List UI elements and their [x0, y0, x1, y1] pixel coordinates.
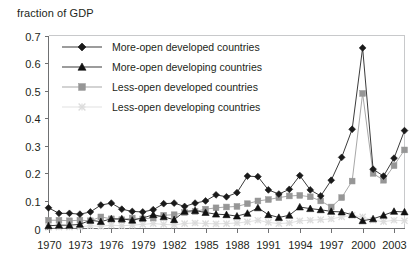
data-point-cross: [391, 217, 397, 223]
data-point-cross: [234, 220, 240, 226]
data-point-diamond: [192, 200, 199, 207]
data-point-diamond: [338, 154, 345, 161]
data-point-cross: [161, 221, 167, 227]
data-point-cross: [108, 222, 114, 228]
x-tick-label: 2000: [351, 239, 375, 251]
data-point-cross: [265, 219, 271, 225]
data-point-cross: [223, 220, 229, 226]
data-point-cross: [318, 217, 324, 223]
x-tick-label: 1997: [319, 239, 343, 251]
data-point-square: [339, 195, 345, 201]
data-point-diamond: [181, 203, 188, 210]
data-point-square: [234, 204, 240, 210]
y-tick-label: 0.6: [25, 58, 40, 70]
data-point-cross: [401, 218, 407, 224]
data-point-square: [79, 84, 86, 91]
y-tick-label: 0.7: [25, 31, 40, 43]
data-point-square: [402, 147, 408, 153]
legend-label: Less-open developed countries: [112, 81, 258, 93]
data-point-triangle: [244, 210, 251, 217]
data-point-cross: [79, 104, 86, 111]
data-point-diamond: [307, 187, 314, 194]
x-tick-label: 1970: [37, 239, 61, 251]
data-point-cross: [276, 220, 282, 226]
data-point-cross: [380, 219, 386, 225]
x-tick-label: 1988: [225, 239, 249, 251]
data-point-diamond: [171, 200, 178, 207]
x-tick-label: 1985: [194, 239, 218, 251]
data-point-square: [349, 178, 355, 184]
data-point-diamond: [150, 206, 157, 213]
data-point-square: [286, 193, 292, 199]
data-point-cross: [286, 220, 292, 226]
data-point-diamond: [97, 202, 104, 209]
data-point-square: [224, 204, 230, 210]
data-point-square: [255, 198, 261, 204]
data-point-diamond: [234, 189, 241, 196]
data-point-diamond: [349, 126, 356, 133]
data-point-cross: [244, 219, 250, 225]
data-point-diamond: [108, 200, 115, 207]
data-point-diamond: [401, 127, 408, 134]
legend-label: More-open developing countries: [112, 61, 262, 73]
data-point-triangle: [380, 212, 387, 219]
data-point-square: [265, 197, 271, 203]
data-point-diamond: [45, 204, 52, 211]
data-point-cross: [213, 221, 219, 227]
data-point-diamond: [129, 208, 136, 215]
data-point-diamond: [87, 209, 94, 216]
x-tick-label: 1991: [256, 239, 280, 251]
data-point-square: [307, 194, 313, 200]
x-tick-label: 1994: [288, 239, 312, 251]
x-tick-label: 2003: [382, 239, 406, 251]
data-point-triangle: [254, 204, 261, 211]
data-point-diamond: [118, 206, 125, 213]
legend-entry-4[interactable]: Less-open developing countries: [62, 101, 260, 113]
data-point-cross: [328, 216, 334, 222]
y-tick-label: 0.4: [25, 113, 40, 125]
data-point-square: [213, 205, 219, 211]
data-point-cross: [150, 220, 156, 226]
legend-entry-2[interactable]: More-open developing countries: [62, 61, 262, 73]
data-point-cross: [119, 223, 125, 229]
data-point-cross: [192, 220, 198, 226]
data-point-square: [360, 91, 366, 97]
data-point-diamond: [139, 209, 146, 216]
line-chart-plot: 00.10.20.30.40.50.60.7197019731976197919…: [0, 0, 418, 276]
legend-label: Less-open developing countries: [112, 101, 260, 113]
data-point-diamond: [244, 173, 251, 180]
y-tick-label: 0.5: [25, 86, 40, 98]
y-tick-label: 0.2: [25, 168, 40, 180]
data-point-diamond: [78, 43, 86, 51]
data-point-diamond: [160, 200, 167, 207]
data-point-diamond: [77, 211, 84, 218]
data-point-diamond: [202, 198, 209, 205]
data-point-cross: [307, 217, 313, 223]
data-point-square: [391, 163, 397, 169]
data-point-diamond: [328, 177, 335, 184]
data-point-diamond: [66, 210, 73, 217]
x-tick-label: 1973: [68, 239, 92, 251]
data-point-cross: [255, 217, 261, 223]
data-point-cross: [297, 218, 303, 224]
data-point-diamond: [359, 45, 366, 52]
y-tick-label: 0.1: [25, 196, 40, 208]
legend-entry-3[interactable]: Less-open developed countries: [62, 81, 258, 93]
x-tick-label: 1976: [99, 239, 123, 251]
data-point-triangle: [265, 211, 272, 218]
data-point-diamond: [213, 191, 220, 198]
data-point-triangle: [296, 203, 303, 210]
data-point-cross: [182, 220, 188, 226]
data-point-square: [297, 193, 303, 199]
legend-entry-1[interactable]: More-open developed countries: [62, 41, 260, 53]
legend-label: More-open developed countries: [112, 41, 260, 53]
data-point-cross: [140, 221, 146, 227]
data-point-cross: [202, 220, 208, 226]
data-point-diamond: [56, 210, 63, 217]
data-point-diamond: [223, 193, 230, 200]
data-point-square: [245, 201, 251, 207]
x-tick-label: 1979: [131, 239, 155, 251]
x-tick-label: 1982: [162, 239, 186, 251]
y-tick-label: 0.3: [25, 141, 40, 153]
data-point-diamond: [391, 155, 398, 162]
